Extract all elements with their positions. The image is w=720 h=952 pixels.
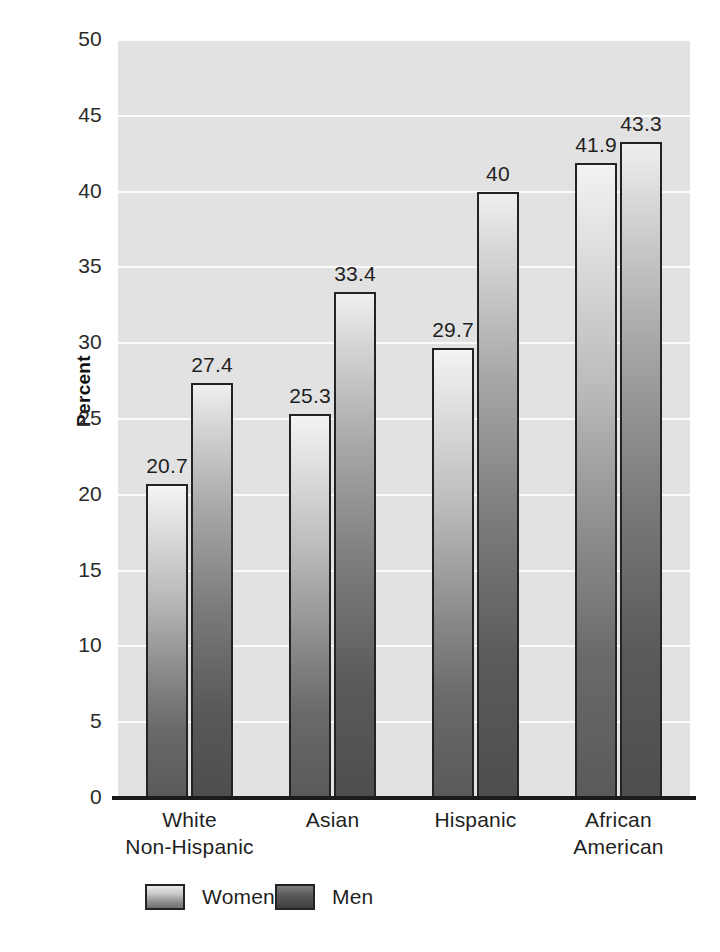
legend-item-men[interactable]: Men — [275, 884, 373, 910]
bar-men — [334, 292, 376, 798]
plot-area: 20.727.425.333.429.74041.943.3 — [118, 40, 690, 798]
x-axis-category-label: WhiteNon-Hispanic — [118, 806, 261, 860]
y-axis-tick-labels: 05101520253035404550 — [56, 40, 102, 798]
bar-chart-figure: Percent 05101520253035404550 20.727.425.… — [0, 0, 720, 952]
bar-women — [289, 414, 331, 798]
bar-value-label: 33.4 — [322, 262, 388, 286]
y-axis-tick-label: 25 — [56, 406, 102, 430]
women-swatch — [145, 884, 185, 910]
bar-women — [146, 484, 188, 798]
category-line-1: African — [585, 808, 652, 831]
y-axis-tick-label: 0 — [56, 785, 102, 809]
category-line-2: Non-Hispanic — [118, 833, 261, 860]
y-axis-tick-label: 15 — [56, 558, 102, 582]
category-line-1: White — [162, 808, 217, 831]
bar-men — [477, 192, 519, 798]
legend-item-women[interactable]: Women — [145, 884, 275, 910]
x-axis-line — [112, 796, 696, 800]
y-axis-tick-label: 40 — [56, 179, 102, 203]
gridline — [118, 39, 690, 41]
y-axis-tick-label: 35 — [56, 254, 102, 278]
bar-value-label: 43.3 — [608, 112, 674, 136]
y-axis-tick-label: 10 — [56, 633, 102, 657]
gridline — [118, 115, 690, 117]
chart-legend: WomenMen — [118, 884, 690, 924]
category-line-1: Asian — [306, 808, 360, 831]
x-axis-category-label: AfricanAmerican — [547, 806, 690, 860]
y-axis-tick-label: 30 — [56, 330, 102, 354]
bar-value-label: 27.4 — [179, 353, 245, 377]
category-line-2: American — [547, 833, 690, 860]
x-axis-category-labels: WhiteNon-HispanicAsianHispanicAfricanAme… — [118, 806, 690, 870]
bar-men — [620, 142, 662, 798]
men-swatch — [275, 884, 315, 910]
bar-women — [575, 163, 617, 798]
bar-value-label: 40 — [465, 162, 531, 186]
bar-men — [191, 383, 233, 798]
x-axis-category-label: Hispanic — [404, 806, 547, 833]
category-line-1: Hispanic — [434, 808, 516, 831]
y-axis-tick-label: 20 — [56, 482, 102, 506]
x-axis-category-label: Asian — [261, 806, 404, 833]
legend-label: Women — [202, 885, 275, 909]
legend-label: Men — [332, 885, 373, 909]
y-axis-tick-label: 50 — [56, 27, 102, 51]
y-axis-tick-label: 5 — [56, 709, 102, 733]
y-axis-tick-label: 45 — [56, 103, 102, 127]
bar-women — [432, 348, 474, 798]
